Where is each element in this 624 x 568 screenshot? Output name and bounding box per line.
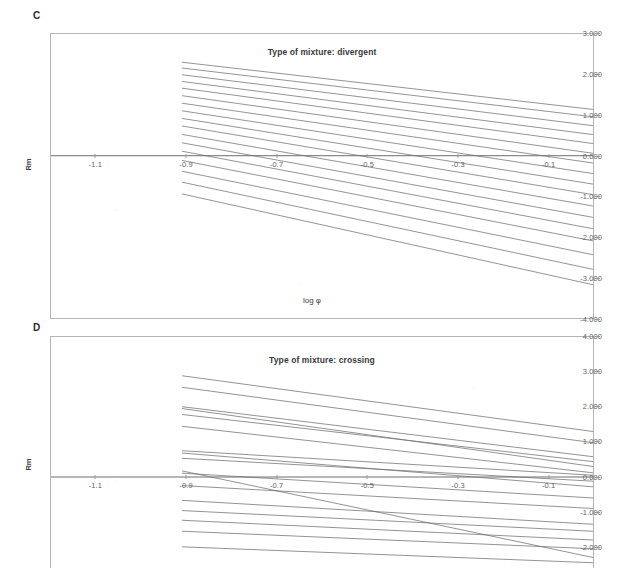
series-line (182, 81, 593, 134)
panel-d: D Type of mixture: crossing 4.0003.0002.… (0, 320, 624, 548)
series-line (182, 547, 593, 563)
series-line (182, 376, 593, 432)
y-axis-tick-mark (595, 196, 600, 197)
y-axis-tick-mark (595, 441, 600, 442)
panel-d-series-group (51, 337, 593, 568)
series-line (182, 75, 593, 126)
series-line (182, 458, 593, 481)
panel-c: C Type of mixture: divergent 3.0002.0001… (0, 0, 624, 320)
series-line (182, 62, 593, 109)
series-line (182, 471, 593, 558)
y-axis-tick-mark (595, 115, 600, 116)
series-line (182, 88, 593, 143)
series-line (182, 160, 593, 240)
y-axis-tick-mark (595, 336, 600, 337)
series-line (182, 531, 593, 549)
y-axis-tick-mark (595, 237, 600, 238)
y-axis-tick-mark (595, 371, 600, 372)
series-line (182, 486, 593, 509)
series-line (182, 387, 593, 442)
series-line (182, 151, 593, 229)
panel-d-label: D (33, 322, 40, 333)
series-line (182, 96, 593, 154)
y-axis-tick-mark (595, 278, 600, 279)
y-axis-tick-mark (595, 156, 600, 157)
series-line (182, 194, 593, 285)
panel-c-x-axis-title: log φ (0, 296, 624, 305)
y-axis-tick-mark (595, 74, 600, 75)
series-line (182, 520, 593, 540)
panel-d-plot-area: Type of mixture: crossing (50, 336, 594, 568)
panel-d-y-axis-title: Rm (24, 453, 33, 477)
series-line (182, 111, 593, 174)
y-axis-tick-mark (595, 406, 600, 407)
y-axis-tick-mark (595, 512, 600, 513)
y-axis-tick-mark (595, 547, 600, 548)
series-line (182, 68, 593, 117)
series-line (182, 126, 593, 195)
y-axis-tick-mark (595, 477, 600, 478)
series-line (182, 171, 593, 254)
series-line (182, 118, 593, 184)
panel-c-y-axis-title: Rm (24, 153, 33, 177)
panel-c-plot-area: Type of mixture: divergent (50, 33, 594, 319)
y-axis-tick-mark (595, 33, 600, 34)
panel-c-series-group (51, 34, 593, 318)
panel-c-label: C (33, 10, 40, 21)
